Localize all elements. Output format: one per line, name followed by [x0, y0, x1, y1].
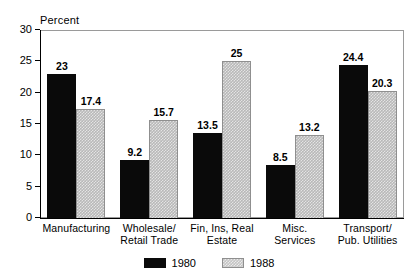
legend-item-1988: 1988	[222, 257, 274, 269]
bars-layer: 2317.49.215.713.5258.513.224.420.3	[40, 30, 404, 218]
legend-swatch-1980	[144, 258, 166, 268]
bar-1988-3	[295, 135, 324, 218]
bar-value-label-1988-4: 20.3	[363, 78, 402, 89]
y-tick-label: 5	[26, 180, 32, 192]
chart-legend: 19801988	[0, 255, 418, 271]
bar-1980-3	[266, 165, 295, 218]
y-tick-label: 25	[20, 54, 32, 66]
legend-label-1988: 1988	[250, 257, 274, 269]
bar-chart: Percent 051015202530 2317.49.215.713.525…	[0, 0, 418, 278]
x-axis-line	[40, 218, 404, 219]
bar-1980-2	[193, 133, 222, 218]
bar-1988-0	[76, 109, 105, 218]
bar-value-label-1988-2: 25	[217, 48, 256, 59]
bar-value-label-1988-0: 17.4	[71, 96, 110, 107]
bar-value-label-1988-3: 13.2	[290, 122, 329, 133]
y-tick-label: 0	[26, 211, 32, 223]
y-tick-label: 30	[20, 23, 32, 35]
bar-1980-1	[120, 160, 149, 218]
y-axis-unit-label: Percent	[40, 14, 79, 26]
legend-label-1980: 1980	[172, 257, 196, 269]
legend-swatch-1988	[222, 258, 244, 268]
x-category-label-4: Transport/ Pub. Utilities	[325, 222, 410, 246]
bar-value-label-1980-4: 24.4	[334, 52, 373, 63]
bar-1988-4	[368, 91, 397, 218]
bar-value-label-1988-1: 15.7	[144, 107, 183, 118]
bar-1988-1	[149, 120, 178, 218]
bar-1988-2	[222, 61, 251, 218]
bar-value-label-1980-0: 23	[42, 61, 81, 72]
y-tick-label: 15	[20, 117, 32, 129]
y-tick-label: 10	[20, 148, 32, 160]
legend-item-1980: 1980	[144, 257, 196, 269]
y-tick-label: 20	[20, 86, 32, 98]
